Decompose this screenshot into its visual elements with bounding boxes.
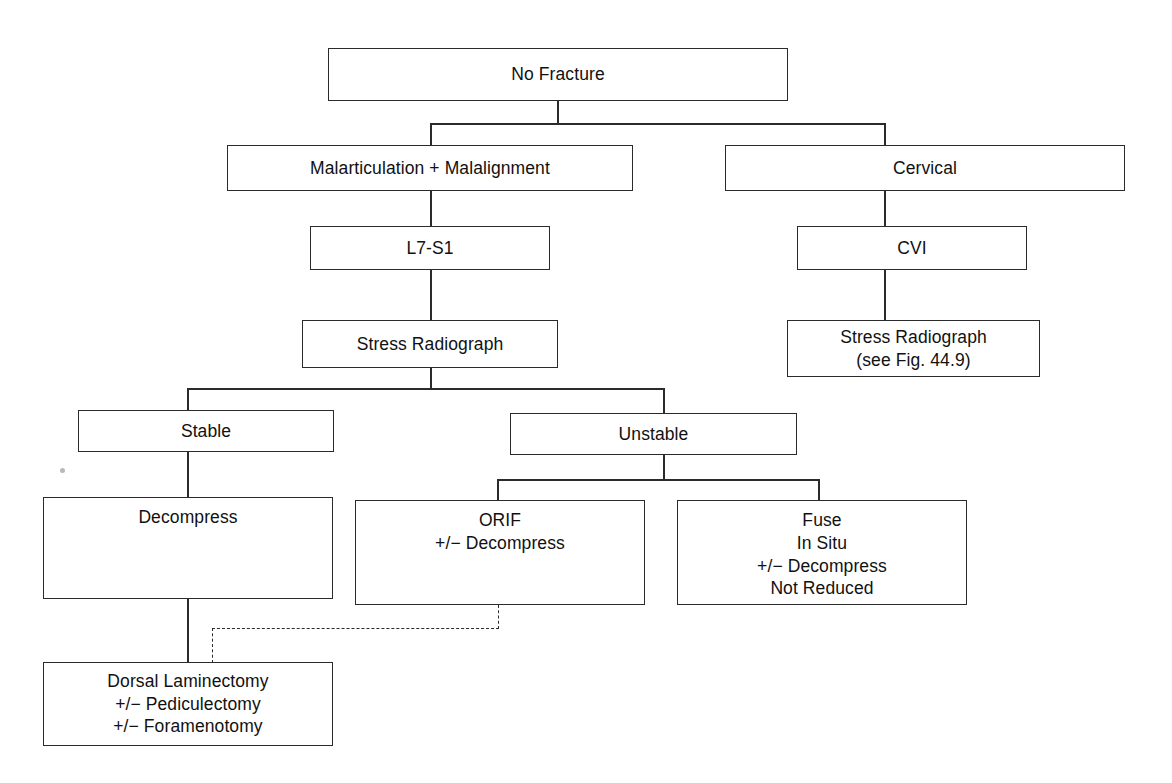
edge-no-fracture-split-bar: [430, 123, 886, 125]
scan-artifact-speck: [60, 468, 65, 473]
edge-unstable-stem: [663, 455, 665, 480]
node-stress-radiograph-cervical-line1: Stress Radiograph: [840, 326, 987, 349]
edge-orif-dashed-to-dorsal-laminectomy: [212, 628, 213, 663]
edge-to-fuse: [818, 479, 820, 500]
node-unstable[interactable]: Unstable: [510, 413, 797, 455]
node-fuse-line4: Not Reduced: [678, 577, 966, 600]
node-dorsal-laminectomy-line3: +/− Foramenotomy: [113, 715, 262, 738]
edge-stable-to-decompress: [187, 452, 189, 498]
node-dorsal-laminectomy-line2: +/− Pediculectomy: [115, 693, 261, 716]
edge-to-unstable: [663, 388, 665, 413]
edge-to-orif: [497, 479, 499, 500]
node-unstable-label: Unstable: [619, 423, 689, 446]
figure-caption: [0, 766, 1172, 783]
node-stress-radiograph-cervical[interactable]: Stress Radiograph (see Fig. 44.9): [787, 320, 1040, 377]
node-cvi[interactable]: CVI: [797, 226, 1027, 270]
node-l7-s1-label: L7-S1: [406, 237, 453, 260]
node-decompress[interactable]: Decompress: [43, 497, 333, 599]
node-malarticulation-malalignment[interactable]: Malarticulation + Malalignment: [227, 145, 633, 191]
node-dorsal-laminectomy-line1: Dorsal Laminectomy: [107, 670, 268, 693]
edge-to-cervical: [884, 123, 886, 145]
node-malarticulation-malalignment-label: Malarticulation + Malalignment: [310, 157, 550, 180]
node-orif-line2: +/− Decompress: [356, 532, 644, 555]
node-no-fracture-label: No Fracture: [511, 63, 605, 86]
node-no-fracture[interactable]: No Fracture: [328, 48, 788, 101]
edge-to-malarticulation: [430, 123, 432, 145]
node-cervical-label: Cervical: [893, 157, 957, 180]
node-stress-radiograph-label: Stress Radiograph: [357, 333, 504, 356]
edge-stress-radiograph-stem: [430, 368, 432, 389]
edge-to-stable: [187, 388, 189, 410]
node-fuse-line3: +/− Decompress: [678, 555, 966, 578]
node-fuse-line2: In Situ: [678, 532, 966, 555]
edge-no-fracture-stem: [557, 101, 559, 124]
node-stress-radiograph-cervical-line2: (see Fig. 44.9): [856, 349, 970, 372]
node-cervical[interactable]: Cervical: [725, 145, 1125, 191]
node-decompress-label: Decompress: [44, 506, 332, 529]
edge-stable-unstable-split-bar: [187, 388, 664, 390]
edge-orif-dashed-down: [498, 605, 499, 629]
node-stable-label: Stable: [181, 420, 231, 443]
edge-decompress-to-dorsal-laminectomy: [187, 599, 189, 663]
node-dorsal-laminectomy[interactable]: Dorsal Laminectomy +/− Pediculectomy +/−…: [43, 662, 333, 746]
edge-cvi-to-stress-radiograph-cervical: [884, 270, 886, 320]
edge-cervical-to-cvi: [884, 191, 886, 226]
node-fuse-in-situ[interactable]: Fuse In Situ +/− Decompress Not Reduced: [677, 500, 967, 605]
node-orif-line1: ORIF: [356, 509, 644, 532]
edge-orif-fuse-split-bar: [497, 479, 819, 481]
flowchart-canvas: No Fracture Malarticulation + Malalignme…: [0, 0, 1172, 783]
edge-malarticulation-to-l7s1: [430, 191, 432, 226]
edge-orif-dashed-across: [212, 628, 499, 629]
node-l7-s1[interactable]: L7-S1: [310, 226, 550, 270]
node-cvi-label: CVI: [897, 237, 926, 260]
edge-l7s1-to-stress-radiograph: [430, 270, 432, 320]
node-stress-radiograph[interactable]: Stress Radiograph: [302, 320, 558, 368]
node-fuse-line1: Fuse: [678, 509, 966, 532]
node-stable[interactable]: Stable: [78, 410, 334, 452]
node-orif[interactable]: ORIF +/− Decompress: [355, 500, 645, 605]
